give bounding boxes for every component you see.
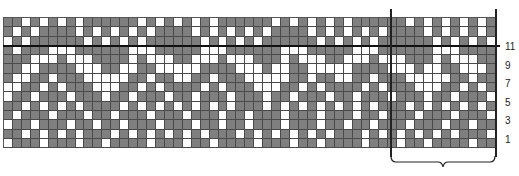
chart-cell (424, 139, 433, 148)
chart-cell (84, 111, 93, 120)
chart-cell (58, 83, 67, 92)
chart-cell (156, 130, 165, 139)
chart-cell (138, 111, 147, 120)
row-label-1: 1 (505, 134, 511, 145)
chart-cell (192, 102, 201, 111)
chart-cell (272, 120, 281, 129)
chart-cell (227, 120, 236, 129)
chart-cell (156, 102, 165, 111)
chart-cell (219, 46, 228, 55)
chart-cell (362, 83, 371, 92)
chart-cell (254, 64, 263, 73)
chart-cell (236, 27, 245, 36)
chart-cell (353, 139, 362, 148)
chart-cell (281, 55, 290, 64)
chart-cell (111, 74, 120, 83)
chart-cell (326, 55, 335, 64)
chart-cell (442, 120, 451, 129)
chart-cell (290, 74, 299, 83)
chart-cell (183, 130, 192, 139)
chart-cell (442, 102, 451, 111)
chart-cell (111, 46, 120, 55)
chart-cell (245, 111, 254, 120)
chart-cell (397, 46, 406, 55)
chart-cell (245, 130, 254, 139)
chart-cell (210, 55, 219, 64)
chart-cell (424, 102, 433, 111)
chart-cell (183, 27, 192, 36)
chart-cell (478, 102, 487, 111)
chart-cell (424, 83, 433, 92)
chart-cell (344, 46, 353, 55)
chart-cell (424, 74, 433, 83)
chart-cell (406, 120, 415, 129)
chart-cell (120, 46, 129, 55)
chart-cell (236, 74, 245, 83)
chart-cell (147, 83, 156, 92)
repeat-brace-icon (390, 155, 500, 175)
chart-cell (460, 46, 469, 55)
chart-cell (129, 139, 138, 148)
chart-cell (165, 120, 174, 129)
chart-cell (111, 18, 120, 27)
chart-cell (406, 83, 415, 92)
chart-cell (31, 55, 40, 64)
chart-cell (317, 102, 326, 111)
chart-cell (192, 64, 201, 73)
chart-cell (138, 64, 147, 73)
chart-cell (344, 120, 353, 129)
chart-cell (460, 120, 469, 129)
chart-cell (308, 120, 317, 129)
chart-cell (102, 55, 111, 64)
chart-cell (460, 139, 469, 148)
chart-cell (469, 55, 478, 64)
chart-cell (469, 139, 478, 148)
chart-cell (308, 46, 317, 55)
chart-cell (335, 111, 344, 120)
chart-cell (433, 55, 442, 64)
chart-cell (165, 111, 174, 120)
chart-cell (4, 130, 13, 139)
chart-cell (236, 130, 245, 139)
chart-cell (379, 139, 388, 148)
chart-cell (219, 27, 228, 36)
chart-cell (442, 18, 451, 27)
chart-cell (147, 74, 156, 83)
chart-cell (460, 92, 469, 101)
chart-cell (406, 55, 415, 64)
chart-cell (442, 92, 451, 101)
chart-cell (49, 55, 58, 64)
chart-cell (362, 139, 371, 148)
chart-cell (93, 18, 102, 27)
chart-cell (335, 64, 344, 73)
chart-cell (478, 139, 487, 148)
chart-cell (4, 120, 13, 129)
chart-cell (138, 120, 147, 129)
chart-cell (317, 92, 326, 101)
chart-cell (478, 64, 487, 73)
chart-cell (102, 102, 111, 111)
chart-cell (76, 130, 85, 139)
chart-cell (379, 92, 388, 101)
chart-cell (281, 27, 290, 36)
chart-cell (344, 130, 353, 139)
chart-cell (156, 64, 165, 73)
chart-cell (415, 46, 424, 55)
chart-cell (442, 139, 451, 148)
chart-cell (281, 18, 290, 27)
chart-cell (183, 111, 192, 120)
chart-cell (335, 46, 344, 55)
chart-cell (147, 102, 156, 111)
chart-cell (424, 111, 433, 120)
chart-cell (370, 74, 379, 83)
chart-cell (236, 120, 245, 129)
chart-cell (272, 102, 281, 111)
chart-cell (406, 111, 415, 120)
chart-cell (469, 18, 478, 27)
chart-cell (370, 46, 379, 55)
chart-cell (120, 27, 129, 36)
chart-cell (4, 111, 13, 120)
chart-cell (317, 64, 326, 73)
chart-cell (219, 18, 228, 27)
chart-cell (58, 130, 67, 139)
